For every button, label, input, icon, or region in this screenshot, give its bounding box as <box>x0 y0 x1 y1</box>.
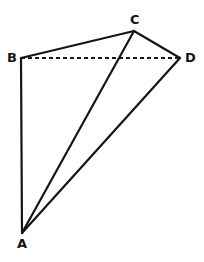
edge-CD <box>134 31 180 58</box>
edge-AC <box>22 31 134 233</box>
vertex-label-c: C <box>130 13 140 26</box>
figure-canvas <box>0 0 204 262</box>
edge-group <box>21 31 180 233</box>
edge-BC <box>21 31 134 58</box>
vertex-label-b: B <box>7 51 17 64</box>
edge-DA <box>22 58 180 233</box>
vertex-label-d: D <box>185 51 196 64</box>
geometry-figure: A B C D <box>0 0 204 262</box>
edge-AB <box>21 58 22 233</box>
vertex-label-a: A <box>17 237 27 250</box>
